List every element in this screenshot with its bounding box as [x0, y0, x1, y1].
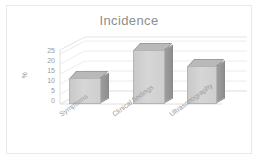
y-axis-label: %	[21, 72, 28, 78]
bar-side-face	[100, 73, 109, 104]
y-tick-10: 10	[39, 77, 55, 84]
y-tick-20: 20	[39, 57, 55, 64]
y-tick-0: 0	[39, 97, 55, 104]
y-tick-25: 25	[39, 47, 55, 54]
chart-container: Incidence 25 2	[6, 5, 252, 154]
y-tick-5: 5	[39, 87, 55, 94]
y-tick-15: 15	[39, 67, 55, 74]
plot-area: 25 20 15 10 5 0 % Symptoms Clinical find…	[7, 6, 253, 155]
bar-side-face	[164, 45, 173, 104]
bar-side-face	[216, 61, 225, 104]
